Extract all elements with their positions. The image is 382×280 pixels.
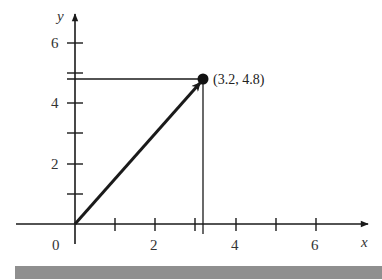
x-tick-label-4: 4: [231, 237, 239, 253]
y-axis-label: y: [55, 8, 64, 24]
x-tick-label-2: 2: [150, 237, 158, 253]
y-tick-label-6: 6: [51, 35, 59, 51]
y-tick-label-4: 4: [51, 95, 59, 111]
point-label: (3.2, 4.8): [213, 72, 265, 88]
x-tick-label-0: 0: [52, 237, 60, 253]
x-axis-label: x: [360, 234, 368, 250]
y-axis: [67, 14, 83, 244]
y-tick-label-2: 2: [51, 156, 59, 172]
position-vector-arrow: [75, 83, 200, 224]
x-axis: [16, 218, 368, 231]
point-dot: [198, 74, 209, 85]
vector-diagram: (3.2, 4.8) y x 0 2 4 6 2 4 6: [0, 0, 382, 280]
bottom-divider-bar: [15, 266, 382, 279]
x-tick-label-6: 6: [311, 237, 319, 253]
